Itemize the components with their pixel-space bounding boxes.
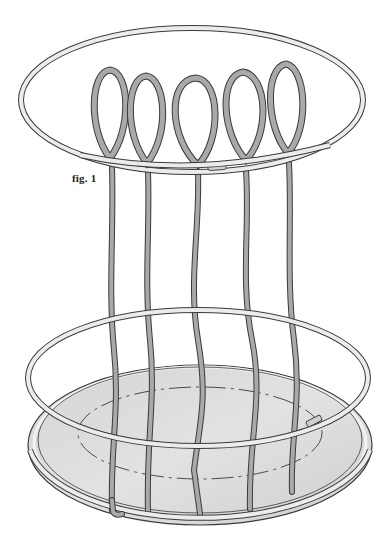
stake-loops [94, 64, 303, 165]
basket-frame-illustration [0, 0, 391, 540]
figure-caption: fig. 1 [72, 172, 96, 184]
